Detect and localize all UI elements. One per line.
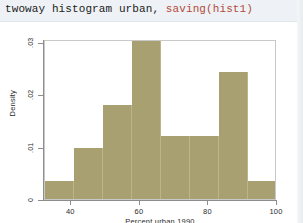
x-tick-label: 40 bbox=[55, 207, 85, 216]
plot-area bbox=[44, 40, 276, 200]
y-tick-label: .03 bbox=[27, 34, 34, 52]
x-tick bbox=[139, 201, 140, 205]
y-tick bbox=[38, 43, 43, 44]
histogram-bar bbox=[132, 40, 161, 199]
y-tick bbox=[38, 200, 43, 201]
histogram-bar bbox=[45, 181, 74, 199]
x-tick-label: 60 bbox=[124, 207, 154, 216]
command-option: saving(hist1) bbox=[166, 3, 253, 15]
y-axis-title: Density bbox=[8, 90, 17, 116]
stata-command-text: twoway histogram urban, saving(hist1) bbox=[5, 3, 253, 15]
command-main: twoway histogram urban, bbox=[5, 3, 166, 15]
histogram-bar bbox=[219, 72, 248, 199]
page-edge-gradient bbox=[297, 0, 303, 223]
y-axis-line bbox=[43, 40, 44, 201]
x-axis-title: Percent urban 1990 bbox=[44, 217, 276, 223]
y-tick-label: .01 bbox=[27, 139, 34, 157]
histogram-bar bbox=[74, 148, 103, 199]
y-tick-label: 0 bbox=[27, 191, 34, 209]
y-tick bbox=[38, 148, 43, 149]
y-tick-label: .02 bbox=[27, 86, 34, 104]
x-tick-label: 100 bbox=[261, 207, 291, 216]
x-tick bbox=[70, 201, 71, 205]
y-tick bbox=[38, 95, 43, 96]
command-line-band: twoway histogram urban, saving(hist1) bbox=[0, 0, 303, 22]
bar-series bbox=[45, 41, 275, 199]
histogram-bar bbox=[161, 136, 190, 199]
histogram-bar bbox=[103, 105, 132, 199]
x-tick bbox=[207, 201, 208, 205]
x-tick bbox=[276, 201, 277, 205]
x-axis-line bbox=[43, 200, 277, 201]
histogram-graph: 0.01.02.03 406080100 Density Percent urb… bbox=[0, 22, 297, 223]
x-tick-label: 80 bbox=[192, 207, 222, 216]
histogram-bar bbox=[190, 136, 219, 199]
histogram-bar bbox=[248, 181, 276, 199]
